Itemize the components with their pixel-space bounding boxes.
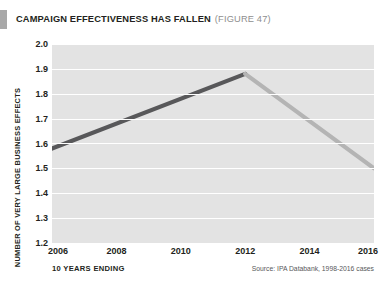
y-axis-tick-label: 1.5	[35, 164, 48, 173]
y-axis-tick-label: 1.3	[35, 214, 48, 223]
gridline	[52, 218, 374, 219]
data-line-group	[52, 74, 374, 169]
y-axis-tick-label: 1.8	[35, 89, 48, 98]
page-title: CAMPAIGN EFFECTIVENESS HAS FALLEN	[16, 14, 211, 24]
plot-area	[52, 44, 374, 243]
gridline	[52, 193, 374, 194]
gridline	[52, 119, 374, 120]
data-line-segment	[52, 74, 245, 149]
gridline	[52, 69, 374, 70]
y-axis-tick-label: 1.9	[35, 64, 48, 73]
chart-container: NUMBER OF VERY LARGE BUSINESS EFFECTS 2.…	[0, 33, 384, 291]
y-axis-title: NUMBER OF VERY LARGE BUSINESS EFFECTS	[13, 78, 22, 278]
gridline	[52, 143, 374, 144]
chart-footer: 10 YEARS ENDING Source: IPA Databank, 19…	[0, 264, 384, 280]
x-axis-tick-label: 2008	[106, 246, 126, 256]
x-axis-tick-label: 2014	[300, 246, 320, 256]
x-axis-tick-label: 2012	[235, 246, 255, 256]
y-axis-tick-label: 1.7	[35, 114, 48, 123]
y-axis-tick-labels: 2.01.91.81.71.61.51.41.31.2	[22, 33, 48, 248]
gridline	[52, 168, 374, 169]
source-note: Source: IPA Databank, 1998-2016 cases	[252, 265, 374, 272]
title-accent-bar	[0, 10, 7, 29]
y-axis-tick-label: 1.6	[35, 139, 48, 148]
x-axis-tick-labels: 200620082010201220142016	[52, 246, 374, 262]
figure-number-label: (FIGURE 47)	[215, 14, 271, 24]
gridline	[52, 44, 374, 45]
x-axis-tick-label: 2010	[171, 246, 191, 256]
x-axis-tick-label: 2006	[48, 246, 68, 256]
gridline	[52, 94, 374, 95]
x-axis-title: 10 YEARS ENDING	[52, 264, 125, 273]
chart-title-row: CAMPAIGN EFFECTIVENESS HAS FALLEN (FIGUR…	[0, 9, 271, 29]
y-axis-tick-label: 1.4	[35, 189, 48, 198]
y-axis-tick-label: 2.0	[35, 40, 48, 49]
x-axis-tick-label: 2016	[358, 246, 378, 256]
gridline	[52, 243, 374, 244]
y-axis-tick-label: 1.2	[35, 239, 48, 248]
data-line-segment	[245, 74, 374, 169]
